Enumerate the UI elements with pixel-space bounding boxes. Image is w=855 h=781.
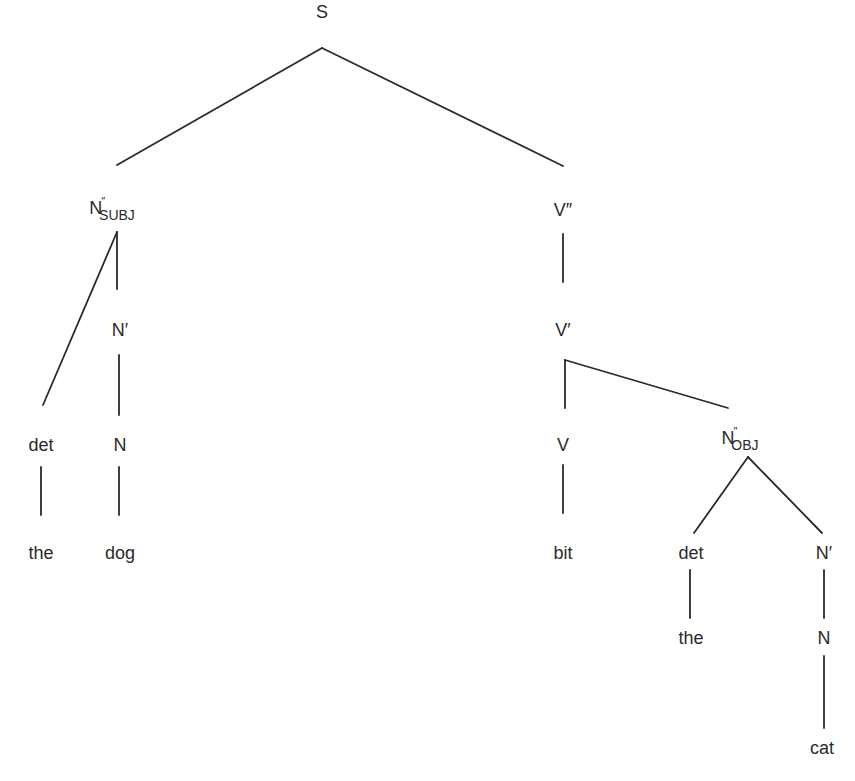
node-label: the xyxy=(28,543,53,563)
node-label: S xyxy=(316,2,328,22)
leaf-the-obj: the xyxy=(678,629,703,647)
edge-s-v2 xyxy=(322,48,563,166)
node-label: N xyxy=(114,435,127,455)
leaf-cat: cat xyxy=(810,739,834,757)
node-n-bar-subj: N′ xyxy=(112,321,128,339)
node-det-obj: det xyxy=(678,544,703,562)
tree-edges xyxy=(0,0,855,781)
node-bar-level: ″ xyxy=(101,195,105,207)
node-label: bit xyxy=(553,543,572,563)
node-label: the xyxy=(678,628,703,648)
node-label: N xyxy=(818,628,831,648)
edge-nobj-n1 xyxy=(748,457,822,533)
leaf-bit: bit xyxy=(553,544,572,562)
node-n-bar-obj: N′ xyxy=(816,544,832,562)
node-s: S xyxy=(316,3,328,21)
leaf-dog: dog xyxy=(105,544,135,562)
edge-v1-nobj xyxy=(565,360,728,408)
node-bar-level: ″ xyxy=(733,425,737,437)
node-label: N′ xyxy=(816,543,832,563)
edge-nobj-det xyxy=(694,457,748,533)
edge-nsubj-det xyxy=(43,232,117,405)
node-label: det xyxy=(678,543,703,563)
node-label: det xyxy=(28,435,53,455)
node-v: V xyxy=(557,436,569,454)
node-v-bar: V′ xyxy=(555,321,570,339)
node-subscript: OBJ xyxy=(731,437,758,453)
node-det-subj: det xyxy=(28,436,53,454)
node-n-double-bar-obj: N″OBJ xyxy=(721,429,758,447)
node-label: V xyxy=(557,435,569,455)
edge-s-nsubj xyxy=(117,48,322,165)
node-subscript: SUBJ xyxy=(99,207,135,223)
node-v-double-bar: V″ xyxy=(554,201,572,219)
node-label: V″ xyxy=(554,200,572,220)
node-label: V′ xyxy=(555,320,570,340)
node-n-double-bar-subj: N″SUBJ xyxy=(89,199,135,217)
node-n-subj: N xyxy=(114,436,127,454)
node-n-obj: N xyxy=(818,629,831,647)
leaf-the-subj: the xyxy=(28,544,53,562)
node-label: dog xyxy=(105,543,135,563)
node-label: cat xyxy=(810,738,834,758)
node-label: N′ xyxy=(112,320,128,340)
